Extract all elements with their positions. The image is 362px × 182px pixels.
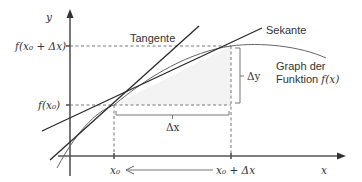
delta-x-bracket bbox=[116, 111, 229, 119]
f-x0-label: f(x₀) bbox=[37, 99, 60, 111]
secant-tangent-diagram: y x f(x₀ + Δx) f(x₀) x₀ x₀ + Δx Δx Δy Ta… bbox=[0, 0, 362, 182]
approach-arrow bbox=[126, 166, 213, 174]
delta-x-label: Δx bbox=[166, 121, 180, 133]
graph-label-math: f(x) bbox=[320, 73, 339, 85]
delta-y-label: Δy bbox=[247, 70, 261, 82]
y-axis-label: y bbox=[45, 11, 53, 23]
graph-label-text: Funktion bbox=[276, 73, 321, 85]
shaded-triangle bbox=[114, 46, 231, 105]
x-axis-arrow-icon bbox=[337, 153, 346, 160]
x0-dx-label: x₀ + Δx bbox=[216, 164, 255, 176]
f-x0-dx-label: f(x₀ + Δx) bbox=[14, 40, 66, 52]
delta-y-bracket bbox=[235, 48, 244, 103]
graph-label-line1: Graph der bbox=[276, 60, 326, 72]
x-axis bbox=[58, 153, 346, 160]
x-axis-label: x bbox=[321, 164, 327, 176]
secant-label: Sekante bbox=[266, 24, 306, 36]
x0-label: x₀ bbox=[110, 164, 121, 176]
y-axis-arrow-icon bbox=[67, 9, 74, 18]
graph-label-line2: Funktion f(x) bbox=[276, 73, 339, 85]
tangent-label: Tangente bbox=[130, 32, 175, 44]
